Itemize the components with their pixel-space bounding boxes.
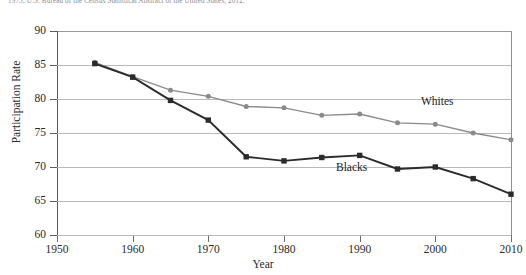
- gridline-70: [57, 167, 511, 168]
- data-point-whites-1965: [168, 88, 173, 93]
- y-tick-65: [50, 201, 57, 202]
- x-tick-1950: [57, 236, 58, 242]
- y-tick-label-75: 75: [0, 127, 46, 139]
- y-tick-90: [50, 31, 57, 32]
- y-tick-85: [50, 65, 57, 66]
- plot-top-rule: [57, 31, 511, 32]
- x-axis-title: Year: [0, 258, 526, 270]
- data-point-whites-1995: [395, 120, 400, 125]
- data-point-blacks-1960: [130, 75, 135, 80]
- data-point-blacks-1990: [357, 153, 362, 158]
- data-point-whites-2000: [433, 122, 438, 127]
- y-tick-label-85: 85: [0, 59, 46, 71]
- data-point-blacks-1985: [319, 155, 324, 160]
- y-tick-label-80: 80: [0, 93, 46, 105]
- data-point-blacks-2005: [471, 176, 476, 181]
- plot-right-border: [511, 31, 512, 236]
- series-label-blacks: Blacks: [336, 161, 367, 173]
- x-tick-1960: [133, 236, 134, 242]
- x-tick-1980: [284, 236, 285, 242]
- y-tick-80: [50, 99, 57, 100]
- x-tick-2000: [435, 236, 436, 242]
- y-tick-70: [50, 167, 57, 168]
- data-point-whites-1985: [319, 113, 324, 118]
- y-tick-label-65: 65: [0, 195, 46, 207]
- data-point-blacks-1970: [206, 117, 211, 122]
- y-tick-label-90: 90: [0, 25, 46, 37]
- source-note: 1975; U.S. Bureau of the Census Statisti…: [8, 0, 428, 5]
- data-point-blacks-1980: [281, 158, 286, 163]
- x-tick-label-2010: 2010: [481, 243, 526, 255]
- y-axis-title: Participation Rate: [10, 42, 22, 162]
- y-tick-label-70: 70: [0, 161, 46, 173]
- series-label-whites: Whites: [421, 95, 454, 107]
- data-point-whites-1990: [357, 112, 362, 117]
- chart-figure: 1975; U.S. Bureau of the Census Statisti…: [0, 0, 526, 275]
- y-tick-60: [50, 235, 57, 236]
- data-point-whites-1975: [244, 104, 249, 109]
- gridline-75: [57, 133, 511, 134]
- y-tick-label-60: 60: [0, 229, 46, 241]
- gridline-65: [57, 201, 511, 202]
- data-point-whites-1960: [130, 74, 135, 79]
- x-tick-label-2000: 2000: [405, 243, 465, 255]
- data-point-whites-1980: [282, 105, 287, 110]
- series-line-blacks: [95, 64, 511, 195]
- data-point-blacks-1975: [244, 154, 249, 159]
- x-tick-label-1970: 1970: [178, 243, 238, 255]
- x-tick-label-1990: 1990: [330, 243, 390, 255]
- x-tick-1970: [208, 236, 209, 242]
- x-tick-label-1980: 1980: [254, 243, 314, 255]
- x-tick-2010: [511, 236, 512, 242]
- x-tick-1990: [360, 236, 361, 242]
- gridline-85: [57, 65, 511, 66]
- x-tick-label-1960: 1960: [103, 243, 163, 255]
- y-tick-75: [50, 133, 57, 134]
- x-tick-label-1950: 1950: [27, 243, 87, 255]
- series-plot: [0, 0, 526, 275]
